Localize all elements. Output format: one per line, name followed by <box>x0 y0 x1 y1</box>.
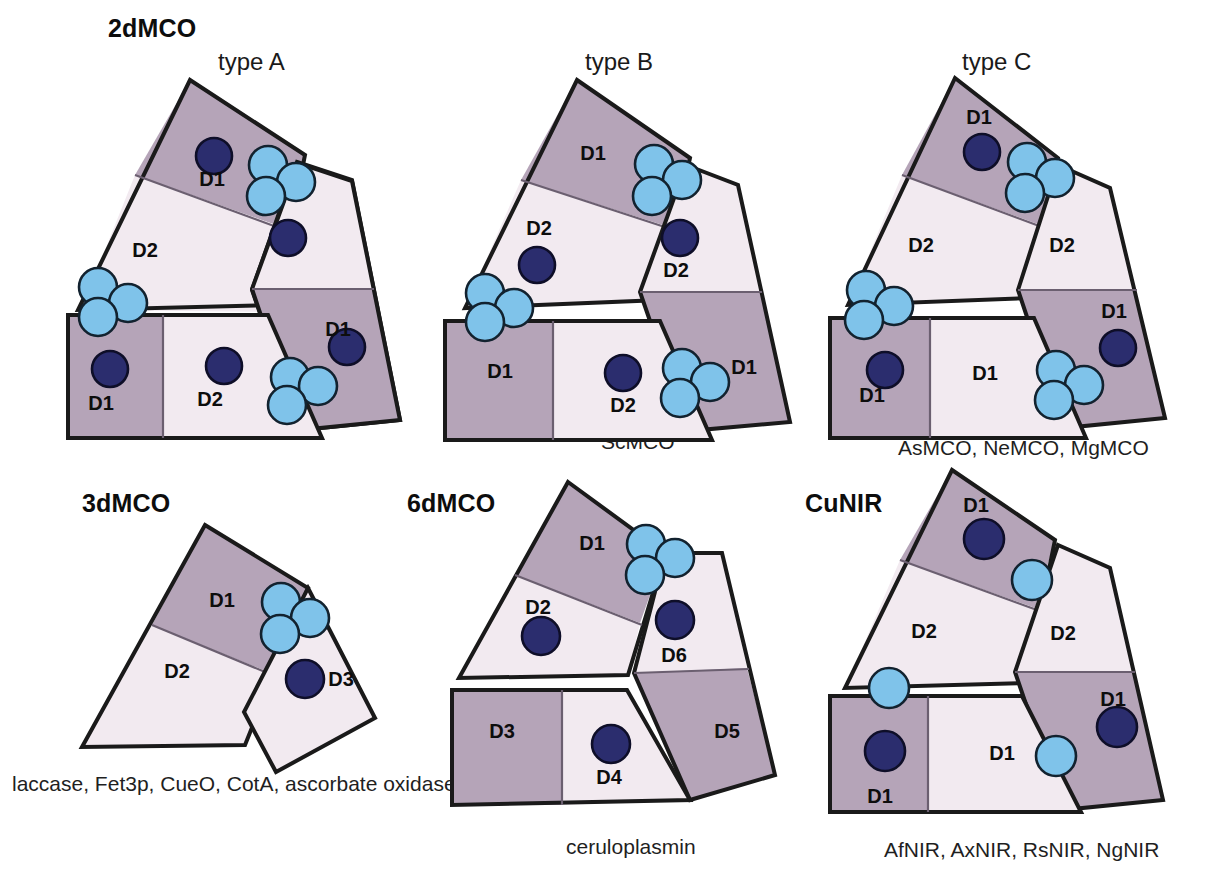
label-c-d1-bottom-left: D1 <box>859 384 885 406</box>
label-a-d2-bottom: D2 <box>197 388 223 410</box>
copper-type2-c-bot-3 <box>1035 381 1073 419</box>
figure-root: 2dMCO type A type B type C ScMCO AsMCO, … <box>0 0 1219 881</box>
label-6d-d6: D6 <box>661 644 687 666</box>
label-n-d1-right: D1 <box>1100 688 1126 710</box>
label-b-d1-top: D1 <box>580 142 606 164</box>
copper-type1-n1 <box>964 519 1004 559</box>
label-c-d1-bottom-right: D1 <box>972 362 998 384</box>
label-n-d2-right: D2 <box>1050 622 1076 644</box>
label-n-d1-top: D1 <box>963 494 989 516</box>
copper-type1-3d <box>286 660 324 698</box>
label-n-d1-bottom-right: D1 <box>989 742 1015 764</box>
label-c-d2-right: D2 <box>1049 234 1075 256</box>
label-c-d1-top: D1 <box>966 106 992 128</box>
label-b-d1-bottom: D1 <box>487 360 513 382</box>
label-6d-d3: D3 <box>489 720 515 742</box>
copper-type2-c-top-3 <box>1006 174 1044 212</box>
label-3d-d3: D3 <box>328 668 354 690</box>
label-n-d1-bottom-left: D1 <box>867 785 893 807</box>
copper-type1-6d-d4 <box>592 725 630 763</box>
copper-type2-c-left-3 <box>845 301 883 339</box>
copper-type2-b-top-3 <box>633 177 671 215</box>
panel-type-a: D1 D2 D1 D1 D2 <box>68 80 400 438</box>
domain-6d-d3 <box>452 690 562 805</box>
copper-type1-b1 <box>519 247 555 283</box>
copper-type1-a3-right <box>206 348 242 384</box>
copper-type2-b-bot-3 <box>661 379 699 417</box>
diagram-svg: .dk { fill: #b5a4b8; } .lt { fill: #f2ea… <box>0 0 1219 881</box>
panel-3dmco: D1 D2 D3 <box>82 525 375 772</box>
panel-cunir: D1 D2 D2 D1 D1 D1 <box>830 470 1163 812</box>
label-a-d2-left: D2 <box>132 239 158 261</box>
label-n-d2-left: D2 <box>911 620 937 642</box>
label-a-d1-right: D1 <box>325 318 351 340</box>
label-6d-d5: D5 <box>714 720 740 742</box>
label-b-d2-right: D2 <box>663 259 689 281</box>
label-b-d2-left: D2 <box>526 217 552 239</box>
copper-type2-a-left-3 <box>79 298 117 336</box>
panel-type-c: D1 D2 D2 D1 D1 D1 <box>830 78 1165 438</box>
panel-type-b: D1 D2 D2 D1 D1 D2 <box>445 80 790 440</box>
copper-type1-c3 <box>867 352 903 388</box>
label-b-d2-bottom: D2 <box>610 394 636 416</box>
label-3d-d1: D1 <box>209 589 235 611</box>
label-c-d2-left: D2 <box>908 234 934 256</box>
panel-6dmco: D1 D2 D6 D3 D4 D5 <box>452 482 775 805</box>
copper-type1-a3 <box>92 351 128 387</box>
label-3d-d2: D2 <box>164 660 190 682</box>
copper-type1-n2 <box>1097 707 1137 747</box>
copper-type2-b-left-3 <box>466 303 504 341</box>
copper-type2-6d-3 <box>626 556 664 594</box>
label-6d-d2: D2 <box>525 596 551 618</box>
copper-type1-c2 <box>1100 330 1136 366</box>
copper-type1-b3 <box>605 355 641 391</box>
copper-type2-a-bot-3 <box>268 386 306 424</box>
copper-type1-a2-upper <box>270 220 306 256</box>
copper-type2-a-top-3 <box>247 177 285 215</box>
copper-type1-6d-d6 <box>656 601 694 639</box>
copper-type2-n-top <box>1012 560 1052 600</box>
label-6d-d4: D4 <box>596 766 622 788</box>
label-6d-d1: D1 <box>579 532 605 554</box>
copper-type2-3d-3 <box>261 615 299 653</box>
label-c-d1-right: D1 <box>1101 300 1127 322</box>
copper-type1-c1 <box>964 134 1000 170</box>
copper-type2-n-bottom <box>1036 736 1076 776</box>
copper-type1-b2 <box>662 220 698 256</box>
label-a-d1-top: D1 <box>199 168 225 190</box>
copper-type1-n3 <box>865 731 905 771</box>
copper-type1-6d-d2 <box>522 617 560 655</box>
label-a-d1-bottom: D1 <box>88 392 114 414</box>
copper-type2-n-left <box>869 668 909 708</box>
label-b-d1-right: D1 <box>731 356 757 378</box>
